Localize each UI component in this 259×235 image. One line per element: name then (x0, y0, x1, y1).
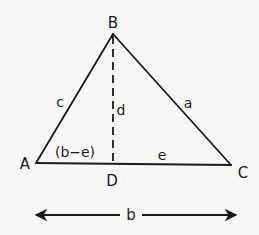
side-label-a: a (184, 95, 193, 111)
side-a-line (113, 34, 231, 165)
segment-label-b-minus-e: (b−e) (55, 144, 95, 160)
vertex-label-c: C (238, 164, 248, 182)
base-b-line (36, 163, 231, 165)
altitude-label-d: d (117, 102, 126, 118)
vertex-label-b: B (108, 14, 118, 32)
vertex-label-a: A (20, 155, 31, 173)
side-label-c: c (56, 94, 64, 110)
dimension-label-b: b (126, 206, 136, 224)
triangle-diagram: B A C D c d a (b−e) e b (0, 0, 259, 235)
vertex-label-d: D (106, 172, 118, 190)
segment-label-e: e (158, 147, 167, 163)
